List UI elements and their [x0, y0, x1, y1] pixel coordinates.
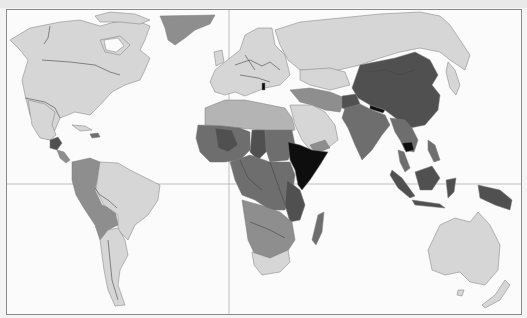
map-page	[0, 0, 527, 318]
region-tasmania[interactable]	[457, 290, 464, 296]
region-malay-peninsula[interactable]	[398, 150, 410, 172]
region-albania[interactable]	[262, 83, 265, 90]
region-kazakhstan[interactable]	[300, 68, 350, 90]
region-southern-cone[interactable]	[100, 228, 128, 306]
region-new-zealand[interactable]	[482, 280, 510, 308]
region-japan[interactable]	[446, 62, 460, 95]
region-uk[interactable]	[214, 50, 224, 66]
region-cuba[interactable]	[72, 125, 92, 131]
region-madagascar[interactable]	[312, 212, 324, 245]
region-borneo[interactable]	[415, 166, 440, 190]
region-central-america[interactable]	[50, 137, 62, 150]
region-papua[interactable]	[478, 185, 512, 210]
region-haiti[interactable]	[90, 133, 100, 138]
world-choropleth-map	[0, 0, 527, 318]
region-java[interactable]	[412, 200, 445, 208]
region-cambodia[interactable]	[402, 142, 414, 152]
region-australia[interactable]	[428, 212, 500, 285]
region-sulawesi[interactable]	[446, 178, 456, 198]
region-north-america[interactable]	[10, 20, 150, 140]
region-philippines[interactable]	[428, 140, 440, 162]
region-arctic-islands[interactable]	[95, 12, 150, 24]
region-greenland[interactable]	[160, 15, 215, 45]
region-central-america-south[interactable]	[57, 150, 70, 163]
